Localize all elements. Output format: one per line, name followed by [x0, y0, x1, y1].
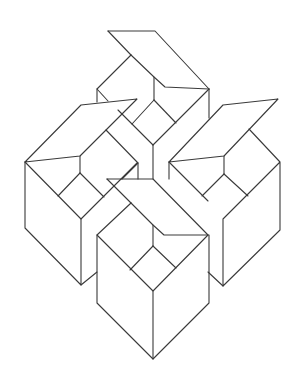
- diagram-canvas: Four interlocking open boxes: [0, 0, 304, 385]
- left-box-edge: [106, 130, 138, 179]
- right-box-edge: [169, 99, 278, 162]
- right-box-edge: [223, 129, 280, 286]
- top-box-edge: [118, 110, 153, 145]
- front-box: [97, 179, 209, 359]
- left-box-edge: [25, 162, 137, 219]
- right-box-edge: [208, 272, 223, 286]
- top-box-edge: [132, 100, 154, 124]
- right-box-edge: [202, 174, 224, 196]
- left-box-edge: [122, 163, 138, 179]
- right-box-edge: [224, 174, 248, 196]
- left-box-edge: [58, 173, 80, 196]
- top-box-edge: [108, 31, 131, 55]
- front-box-edge: [107, 179, 208, 235]
- top-box: [97, 31, 209, 179]
- top-box-edge: [153, 89, 209, 145]
- interlocking-boxes-drawing: [0, 0, 304, 385]
- front-box-edge: [131, 203, 208, 235]
- left-box-edge: [81, 272, 97, 285]
- top-box-edge: [108, 31, 209, 89]
- left-box-edge: [80, 173, 104, 197]
- top-box-edge: [154, 100, 176, 123]
- front-box-edge: [130, 246, 153, 270]
- top-box-edge: [131, 55, 209, 89]
- top-box-edge: [97, 89, 108, 101]
- left-box-edge: [25, 99, 137, 162]
- front-box-edge: [153, 246, 176, 268]
- front-box-edge: [107, 179, 131, 203]
- left-box: [25, 99, 138, 285]
